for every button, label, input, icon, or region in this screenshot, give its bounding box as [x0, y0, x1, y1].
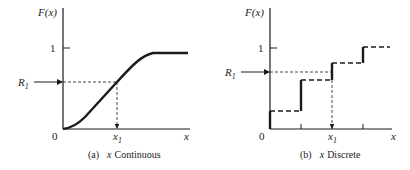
x1-label: x1	[327, 130, 337, 145]
caption: (a)xContinuous	[88, 149, 161, 161]
y-axis-label: F(x)	[244, 6, 264, 19]
caption: (b)xDiscrete	[300, 149, 361, 161]
origin-label: 0	[52, 130, 58, 142]
y-axis-label: F(x)	[37, 6, 57, 19]
r1-label: R1	[17, 76, 29, 91]
cdf-curve	[63, 53, 188, 129]
tick-one-label: 1	[258, 42, 264, 54]
x-axis-label: x	[183, 130, 189, 142]
x-axis-label: x	[390, 130, 396, 142]
cdf-diagram: F(x) 1 R1 0 x1 x (a)xContinuous F(x) 1 R…	[0, 0, 410, 170]
panel-continuous: F(x) 1 R1 0 x1 x (a)xContinuous	[17, 6, 190, 161]
origin-label: 0	[259, 130, 265, 142]
x1-label: x1	[112, 130, 122, 145]
tick-one-label: 1	[50, 42, 56, 54]
r1-label: R1	[224, 66, 236, 81]
panel-discrete: F(x) 1 R1 0 x1 x (b)xDiscrete	[224, 6, 396, 161]
